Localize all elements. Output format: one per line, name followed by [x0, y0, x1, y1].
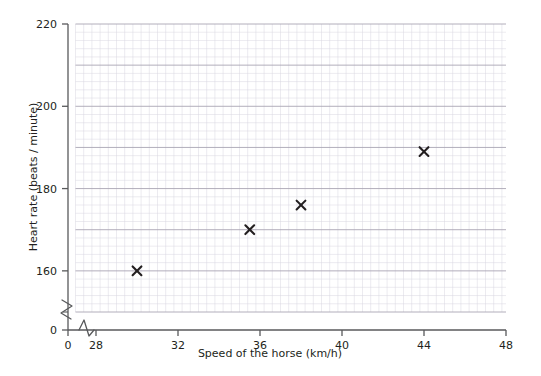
x-tick-label: 48 — [499, 339, 513, 352]
x-axis-title: Speed of the horse (km/h) — [198, 347, 342, 360]
x-tick-label: 0 — [65, 339, 72, 352]
y-tick-label: 160 — [36, 265, 57, 278]
chart-background — [0, 0, 541, 376]
x-tick-label: 44 — [417, 339, 431, 352]
x-tick-label: 32 — [171, 339, 185, 352]
y-tick-label: 220 — [36, 18, 57, 31]
chart-canvas: 0160180200220 0283236404448 Speed of the… — [0, 0, 541, 376]
scatter-chart: 0160180200220 0283236404448 Speed of the… — [0, 0, 541, 376]
y-axis-title: Heart rate (beats / minute) — [27, 103, 40, 252]
y-tick-label: 0 — [50, 324, 57, 337]
x-tick-label: 28 — [89, 339, 103, 352]
